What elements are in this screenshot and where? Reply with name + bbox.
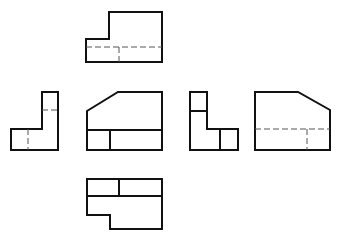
outline — [87, 92, 162, 150]
back-view — [255, 92, 330, 150]
right-view — [190, 92, 238, 150]
bottom-view — [87, 179, 162, 229]
left-view — [11, 92, 58, 150]
outline — [86, 12, 162, 62]
top-view — [86, 12, 162, 62]
outline — [255, 92, 330, 150]
outline — [87, 179, 162, 229]
outline — [11, 92, 58, 150]
orthographic-drawing — [0, 0, 342, 242]
outline — [190, 92, 238, 150]
front-view — [87, 92, 162, 150]
